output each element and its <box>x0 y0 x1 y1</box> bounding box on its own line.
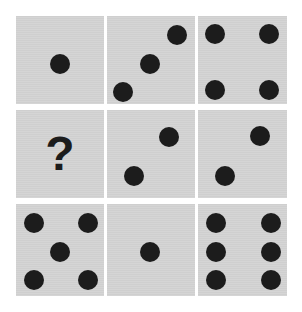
dice-puzzle-grid: ? <box>0 0 302 312</box>
pip-dot-icon <box>259 24 279 44</box>
dice-cell <box>16 16 104 104</box>
dice-cell <box>198 204 287 296</box>
dice-cell <box>198 16 287 104</box>
pip-dot-icon <box>206 242 226 262</box>
question-mark-icon: ? <box>16 110 104 198</box>
pip-dot-icon <box>78 270 98 290</box>
pip-dot-icon <box>261 270 281 290</box>
pip-dot-icon <box>113 82 133 102</box>
dice-cell <box>107 204 195 296</box>
dice-cell <box>107 16 195 104</box>
dice-cell <box>107 110 195 198</box>
pip-dot-icon <box>78 213 98 233</box>
pip-dot-icon <box>167 25 187 45</box>
pip-dot-icon <box>140 242 160 262</box>
pip-dot-icon <box>24 270 44 290</box>
pip-dot-icon <box>206 270 226 290</box>
dice-cell <box>198 110 287 198</box>
dice-cell <box>16 204 104 296</box>
pip-dot-icon <box>205 24 225 44</box>
pip-dot-icon <box>261 213 281 233</box>
pip-dot-icon <box>159 127 179 147</box>
pip-dot-icon <box>250 126 270 146</box>
pip-dot-icon <box>261 242 281 262</box>
pip-dot-icon <box>206 213 226 233</box>
pip-dot-icon <box>50 54 70 74</box>
pip-dot-icon <box>24 213 44 233</box>
pip-dot-icon <box>124 166 144 186</box>
pip-dot-icon <box>259 80 279 100</box>
pip-dot-icon <box>205 80 225 100</box>
missing-cell[interactable]: ? <box>16 110 104 198</box>
pip-dot-icon <box>50 242 70 262</box>
pip-dot-icon <box>215 166 235 186</box>
pip-dot-icon <box>140 54 160 74</box>
